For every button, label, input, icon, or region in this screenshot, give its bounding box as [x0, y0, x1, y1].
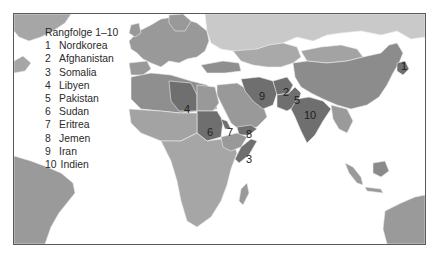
map-label-libyen: 4 [184, 103, 190, 115]
map-label-afghanistan: 2 [283, 86, 289, 98]
map-label-nordkorea: 1 [401, 60, 407, 72]
legend-item: 9Iran [45, 145, 118, 158]
map-label-somalia: 3 [246, 153, 252, 165]
region-turkey [201, 61, 241, 73]
region-australia [383, 195, 425, 244]
map-frame: Rangfolge 1–10 1Nordkorea 2Afghanistan 3… [13, 13, 426, 245]
region-sumatra [345, 163, 363, 185]
region-borneo [373, 161, 389, 177]
legend-item: 8Jemen [45, 132, 118, 145]
region-java [365, 187, 383, 193]
legend-item: 4Libyen [45, 79, 118, 92]
map-label-indien: 10 [304, 109, 316, 121]
legend: Rangfolge 1–10 1Nordkorea 2Afghanistan 3… [45, 26, 118, 171]
region-iberia [129, 61, 151, 75]
map-label-jemen: 8 [246, 128, 252, 140]
legend-title: Rangfolge 1–10 [45, 26, 118, 39]
region-se-asia [331, 105, 353, 133]
legend-item: 2Afghanistan [45, 52, 118, 65]
legend-item: 7Eritrea [45, 118, 118, 131]
map-label-iran: 9 [259, 90, 265, 102]
map-label-sudan: 6 [207, 126, 213, 138]
region-canada-fragment [14, 56, 31, 73]
map-label-eritrea: 7 [227, 126, 233, 138]
region-madagascar [239, 183, 249, 205]
map-label-pakistan: 5 [294, 94, 300, 106]
region-europe [129, 17, 209, 67]
legend-item: 10Indien [45, 158, 118, 171]
legend-item: 1Nordkorea [45, 39, 118, 52]
legend-item: 6Sudan [45, 105, 118, 118]
region-egypt [197, 85, 219, 111]
legend-item: 5Pakistan [45, 92, 118, 105]
legend-item: 3Somalia [45, 66, 118, 79]
